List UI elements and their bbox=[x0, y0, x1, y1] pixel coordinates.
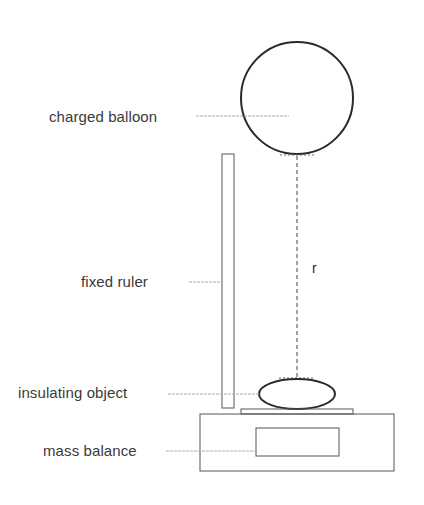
charged-balloon-label: charged balloon bbox=[49, 108, 157, 126]
distance-r-label: r bbox=[312, 260, 317, 276]
insulating-object-label: insulating object bbox=[18, 384, 127, 402]
fixed-ruler-shape bbox=[222, 154, 234, 408]
mass-balance-label: mass balance bbox=[43, 442, 137, 460]
insulating-object-shape bbox=[259, 379, 335, 409]
fixed-ruler-label: fixed ruler bbox=[81, 273, 148, 291]
mass-balance-body bbox=[200, 414, 394, 471]
mass-balance-display bbox=[256, 428, 339, 456]
charged-balloon-shape bbox=[241, 42, 353, 154]
experiment-diagram bbox=[0, 0, 424, 505]
